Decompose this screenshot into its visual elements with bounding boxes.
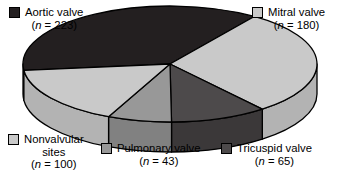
legend-label-group-aortic: Aortic valve (n = 223) xyxy=(25,6,83,31)
legend-count-rest-pulmonary: = 43) xyxy=(149,155,178,167)
legend-count-rest-nonvalvular: = 100) xyxy=(41,158,77,170)
legend-swatch-pulmonary-valve xyxy=(101,143,112,154)
legend-label-pulmonary-valve: Pulmonary valve xyxy=(117,142,201,155)
legend-label2-nonvalvular-sites: sites xyxy=(24,146,84,159)
legend-label-group-pulmonary: Pulmonary valve (n = 43) xyxy=(117,142,201,167)
legend-label-tricuspid-valve: Tricuspid valve xyxy=(237,142,312,155)
legend-count-rest-aortic: = 223) xyxy=(41,19,77,31)
pie-chart-figure: Aortic valve (n = 223) Mitral valve (n =… xyxy=(0,0,340,183)
legend-label-mitral-valve: Mitral valve xyxy=(268,6,325,19)
legend-swatch-mitral-valve xyxy=(252,7,263,18)
legend-swatch-aortic-valve xyxy=(9,7,20,18)
legend-swatch-nonvalvular-sites xyxy=(8,134,19,145)
legend-item-mitral-valve[interactable]: Mitral valve (n = 180) xyxy=(252,6,325,31)
legend-item-pulmonary-valve[interactable]: Pulmonary valve (n = 43) xyxy=(101,142,201,167)
legend-count-rest-tricuspid: = 65) xyxy=(265,155,294,167)
legend-label-aortic-valve: Aortic valve xyxy=(25,6,83,19)
legend-count-aortic-valve: (n = 223) xyxy=(25,19,83,32)
legend-item-tricuspid-valve[interactable]: Tricuspid valve (n = 65) xyxy=(221,142,312,167)
legend-label-group-mitral: Mitral valve (n = 180) xyxy=(268,6,325,31)
legend-label-nonvalvular-sites: Nonvalvular xyxy=(24,133,84,146)
legend-count-tricuspid-valve: (n = 65) xyxy=(237,155,312,168)
legend-swatch-tricuspid-valve xyxy=(221,143,232,154)
legend-item-nonvalvular-sites[interactable]: Nonvalvular sites (n = 100) xyxy=(8,133,84,171)
legend-item-aortic-valve[interactable]: Aortic valve (n = 223) xyxy=(9,6,83,31)
legend-count-nonvalvular-sites: (n = 100) xyxy=(24,158,84,171)
legend-count-rest-mitral: = 180) xyxy=(284,19,320,31)
legend-count-mitral-valve: (n = 180) xyxy=(268,19,325,32)
legend-label-group-tricuspid: Tricuspid valve (n = 65) xyxy=(237,142,312,167)
legend-count-pulmonary-valve: (n = 43) xyxy=(117,155,201,168)
legend-label-group-nonvalvular: Nonvalvular sites (n = 100) xyxy=(24,133,84,171)
